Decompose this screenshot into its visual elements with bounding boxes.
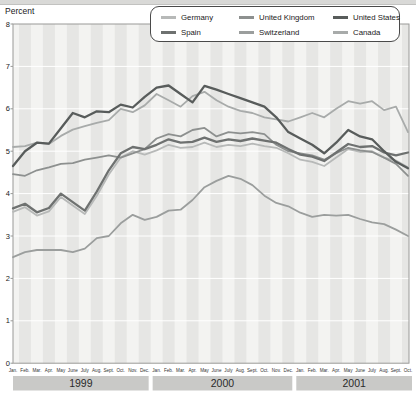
month-label: July [81, 368, 90, 373]
legend-label: Germany [181, 13, 213, 22]
y-tick-label: 6 [6, 104, 10, 113]
month-label: Apr. [45, 368, 53, 373]
month-label: Oct. [260, 368, 268, 373]
month-label: June [212, 368, 222, 373]
legend-swatch [333, 16, 348, 18]
month-label: Nov. [128, 368, 137, 373]
month-label: Jan. [9, 368, 18, 373]
month-label: Oct. [404, 368, 412, 373]
legend-label: United Kingdom [259, 13, 314, 22]
month-label: Mar. [32, 368, 41, 373]
month-label: June [355, 368, 365, 373]
month-label: Aug. [92, 368, 101, 373]
year-band-label: 1999 [69, 377, 93, 389]
legend-swatch [161, 16, 176, 18]
y-tick-label: 5 [6, 147, 10, 156]
legend-swatch [333, 31, 348, 33]
month-label: July [368, 368, 377, 373]
y-tick-label: 3 [6, 232, 10, 241]
month-label: Nov. [272, 368, 281, 373]
y-tick-label: 4 [6, 189, 10, 198]
month-label: July [224, 368, 233, 373]
y-tick-label: 2 [6, 274, 10, 283]
legend-item-united-kingdom: United Kingdom [239, 13, 333, 22]
interest-rate-chart-page: Percent 012345678Jan.Feb.Mar.Apr.MayJune… [0, 0, 416, 396]
legend-item-united-states: United States [333, 13, 411, 22]
month-label: Apr. [332, 368, 340, 373]
year-band-label: 2000 [211, 377, 235, 389]
month-label: Sept. [103, 368, 114, 373]
month-label: Aug. [379, 368, 388, 373]
month-label: May [200, 368, 209, 373]
month-label: Feb. [308, 368, 317, 373]
legend-item-switzerland: Switzerland [239, 28, 333, 37]
y-tick-label: 1 [6, 316, 10, 325]
month-label: Jan. [152, 368, 161, 373]
legend-label: United States [353, 13, 400, 22]
legend-label: Switzerland [259, 28, 299, 37]
y-tick-label: 8 [6, 20, 10, 29]
month-label: Aug. [236, 368, 245, 373]
month-label: Apr. [188, 368, 196, 373]
month-label: Feb. [164, 368, 173, 373]
month-label: June [68, 368, 78, 373]
legend-swatch [161, 31, 176, 33]
month-label: Mar. [320, 368, 329, 373]
bond-yield-line-chart: 012345678Jan.Feb.Mar.Apr.MayJuneJulyAug.… [0, 0, 416, 396]
legend-box: GermanyUnited KingdomUnited StatesSpainS… [150, 6, 400, 42]
month-label: Jan. [296, 368, 305, 373]
month-label: Mar. [176, 368, 185, 373]
month-label: Sept. [247, 368, 258, 373]
month-label: Dec. [284, 368, 293, 373]
legend-label: Canada [353, 28, 380, 37]
legend-label: Spain [181, 28, 201, 37]
legend-swatch [239, 16, 254, 18]
year-band-label: 2001 [342, 377, 366, 389]
legend-item-canada: Canada [333, 28, 411, 37]
y-tick-label: 0 [6, 359, 10, 368]
month-label: May [57, 368, 66, 373]
month-label: Dec. [140, 368, 149, 373]
legend-item-spain: Spain [161, 28, 239, 37]
month-label: Sept. [391, 368, 402, 373]
month-label: Feb. [20, 368, 29, 373]
month-label: May [344, 368, 353, 373]
month-label: Oct. [117, 368, 125, 373]
legend-swatch [239, 31, 254, 33]
y-tick-label: 7 [6, 62, 10, 71]
legend-item-germany: Germany [161, 13, 239, 22]
